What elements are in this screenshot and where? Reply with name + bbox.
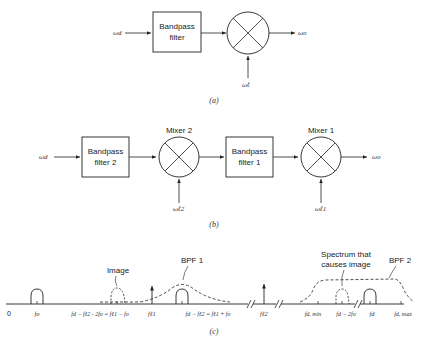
mixer-1-icon: [301, 137, 341, 177]
output-label: ωo: [298, 29, 307, 37]
label-fo: fo: [34, 310, 40, 317]
bpf1-response: [100, 284, 230, 302]
bandpass-filter-box: [153, 12, 201, 52]
image-leader: [115, 276, 117, 286]
bpf2-response: [300, 279, 414, 302]
diagram-a: ωd Bandpass filter ωo ωℓ (a): [113, 12, 307, 105]
bpf2-annotation: BPF 2: [389, 256, 412, 265]
filter-label-2: filter: [169, 33, 184, 42]
bpf2-leader: [389, 266, 396, 278]
filter2-label-2: filter 2: [95, 158, 117, 167]
label-fd: fd: [369, 310, 375, 317]
label-fd-min: fd, min: [305, 311, 322, 317]
label-fl2: fℓ2: [260, 310, 269, 317]
spectrum-annotation: Spectrum that: [321, 250, 372, 259]
input-label: ωd: [39, 153, 48, 161]
bpf1-annotation: BPF 1: [181, 256, 204, 265]
label-fd-max: fd, max: [394, 311, 412, 317]
filter1-label-2: filter 1: [239, 158, 261, 167]
spectrum-annotation-2: causes image: [321, 260, 371, 269]
lo-label: ωℓ: [242, 81, 250, 89]
input-label: ωd: [113, 29, 122, 37]
label-fd-minus-2fo: fd − 2fo: [336, 311, 355, 317]
mixer-icon: [227, 12, 269, 54]
mixer-2-icon: [159, 137, 199, 177]
lo1-label: ωℓ1: [315, 205, 326, 213]
mixer1-label: Mixer 1: [308, 126, 335, 135]
label-if-freq: fd − fℓ2 = fℓ1 + fo: [186, 311, 231, 317]
bandpass-filter-2-box: [82, 137, 129, 177]
label-zero: 0: [7, 310, 11, 317]
diagram-c: Image BPF 1 Spectrum that causes image B…: [6, 250, 414, 336]
filter2-label: Bandpass: [88, 147, 124, 156]
caption-a: (a): [209, 96, 219, 105]
diagram-canvas: ωd Bandpass filter ωo ωℓ (a) ωd Bandpass…: [0, 0, 428, 351]
output-label: ωo: [372, 153, 381, 161]
lo2-label: ωℓ2: [173, 205, 185, 213]
mixer2-label: Mixer 2: [166, 126, 193, 135]
diagram-b: ωd Bandpass filter 2 Mixer 2 ωℓ2 Bandpas…: [39, 126, 381, 229]
image-causing-spectrum: [336, 289, 349, 304]
bandpass-filter-1-box: [226, 137, 273, 177]
caption-c: (c): [210, 327, 219, 336]
filter-label: Bandpass: [159, 22, 195, 31]
caption-b: (b): [209, 220, 219, 229]
label-image-freq: fd − fℓ2 - 2fo = fℓ1 − fo: [71, 311, 128, 317]
label-fl1: fℓ1: [148, 310, 156, 317]
filter1-label: Bandpass: [232, 147, 268, 156]
bpf1-leader: [183, 266, 188, 280]
image-annotation: Image: [107, 266, 130, 275]
spectrum-leader: [342, 270, 344, 286]
